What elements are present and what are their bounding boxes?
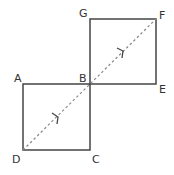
label-c: C [92,153,100,166]
label-e: E [159,83,166,96]
label-a: A [14,72,22,85]
arrow-icon-lower [52,113,58,124]
label-d: D [12,153,20,166]
diagram-canvas: A B C D E F G [0,0,174,175]
label-g: G [79,7,88,20]
label-b: B [79,72,87,85]
arrow-icon-upper [117,48,123,58]
label-f: F [159,9,165,22]
